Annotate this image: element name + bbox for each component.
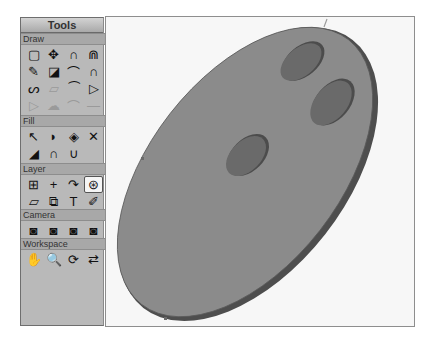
blob-fill-icon[interactable]: ◗ [44, 128, 63, 145]
layer-tools: ⊞+↷⊛▱⧉T✐ [24, 176, 104, 210]
section-camera: Camera [21, 209, 105, 221]
trapezoid-icon[interactable]: ▷ [24, 97, 43, 114]
camera-up-icon[interactable]: ◙ [44, 222, 63, 239]
arc-icon[interactable]: ∩ [64, 46, 83, 63]
triangles-icon[interactable]: ▷ [84, 80, 103, 97]
select-fill-icon[interactable]: ↖ [24, 128, 43, 145]
wave-fill-icon[interactable]: ∪ [64, 145, 83, 162]
hand-icon[interactable]: ✋ [24, 251, 43, 268]
panel-title: Tools [21, 18, 103, 33]
section-workspace: Workspace [21, 238, 105, 250]
rotate-layer-icon[interactable]: ↷ [64, 176, 83, 193]
section-draw: Draw [21, 33, 105, 45]
tools-panel: Tools Draw ▢✥∩⋒✎◪⌒∩ᔕ▱⁀▷▷☁⌒— Fill ↖◗◈✕◢∩∪… [20, 17, 104, 326]
plane-icon[interactable]: ▱ [24, 193, 43, 210]
arc-fill-icon[interactable]: ∩ [44, 145, 63, 162]
node-arc-icon[interactable]: ⁀ [64, 80, 83, 97]
delete-fill-icon[interactable]: ✕ [84, 128, 103, 145]
zoom-icon[interactable]: 🔍 [44, 251, 63, 268]
paint-bucket-icon[interactable]: ◈ [64, 128, 83, 145]
drawing-canvas[interactable] [105, 16, 415, 327]
eraser-icon[interactable]: ▱ [44, 80, 63, 97]
cloud-shape-icon[interactable]: ☁ [44, 97, 63, 114]
pencil-icon[interactable]: ✎ [24, 63, 43, 80]
gradient-icon[interactable]: ◢ [24, 145, 43, 162]
camera-pan-icon[interactable]: ◙ [24, 222, 43, 239]
rotate-view-icon[interactable]: ⟳ [64, 251, 83, 268]
workspace-tools: ✋🔍⟳⇄ [24, 251, 104, 268]
scene [106, 17, 415, 327]
fill-tools: ↖◗◈✕◢∩∪ [24, 128, 104, 162]
camera-zoom-icon[interactable]: ◙ [84, 222, 103, 239]
section-fill: Fill [21, 115, 105, 127]
magnet-icon[interactable]: ∩ [84, 63, 103, 80]
camera-tools: ◙◙◙◙ [24, 222, 104, 239]
line-dim-icon[interactable]: — [84, 97, 103, 114]
double-arc-icon[interactable]: ⋒ [84, 46, 103, 63]
layer-group-icon[interactable]: ⧉ [44, 193, 63, 210]
add-layer-icon[interactable]: ⊞ [24, 176, 43, 193]
handle-marker [324, 19, 327, 27]
move-icon[interactable]: ✥ [44, 46, 63, 63]
anchor-left [141, 157, 144, 160]
freehand-curve-icon[interactable]: ᔕ [24, 80, 43, 97]
layer-stack-icon[interactable]: ⊛ [84, 176, 103, 193]
crosshair-icon[interactable]: + [44, 176, 63, 193]
reset-view-icon[interactable]: ⇄ [84, 251, 103, 268]
eyedropper-icon[interactable]: ✐ [84, 193, 103, 210]
text-icon[interactable]: T [64, 193, 83, 210]
curve-dim-icon[interactable]: ⌒ [64, 97, 83, 114]
anchor-bottom [164, 317, 167, 320]
camera-orbit-icon[interactable]: ◙ [64, 222, 83, 239]
rectangle-select-icon[interactable]: ▢ [24, 46, 43, 63]
section-layer: Layer [21, 163, 105, 175]
draw-tools: ▢✥∩⋒✎◪⌒∩ᔕ▱⁀▷▷☁⌒— [24, 46, 104, 114]
bezier-curve-icon[interactable]: ⌒ [64, 63, 83, 80]
shapes-icon[interactable]: ◪ [44, 63, 63, 80]
